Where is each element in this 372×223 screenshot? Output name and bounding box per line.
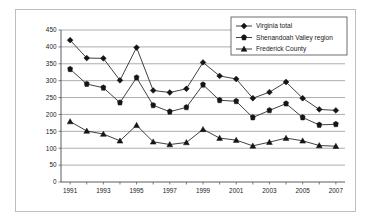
data-point [316,106,322,112]
data-point [200,126,206,131]
data-point [217,135,223,140]
y-tick-label: 350 [46,60,57,67]
chart-legend: Virginia totalShenandoah Valley regionFr… [231,17,347,55]
data-point [67,119,73,124]
y-tick-label: 400 [46,43,57,50]
data-point [150,88,156,94]
data-point [317,122,322,127]
data-point [333,121,338,126]
screenshot-root: 050100150200250300350400450 199119931995… [0,0,372,223]
x-tick-label: 1995 [129,187,144,194]
data-point [283,135,289,140]
x-tick-label: 1991 [63,187,78,194]
x-tick-label: 1997 [163,187,178,194]
x-tick-label: 2005 [296,187,311,194]
data-point [267,107,272,112]
y-tick-label: 450 [46,26,57,33]
data-point [167,90,173,96]
legend-marker [242,35,247,40]
data-point [68,66,73,71]
data-point [300,115,305,120]
y-tick-label: 50 [49,161,57,168]
data-point [217,97,222,102]
y-tick-label: 100 [46,145,57,152]
y-tick-label: 0 [53,178,57,185]
data-point [151,102,156,107]
data-point [84,128,90,133]
line-chart: 050100150200250300350400450 199119931995… [0,0,372,223]
data-point [134,122,140,127]
data-point [250,115,255,120]
data-point [183,86,189,92]
y-tick-label: 300 [46,77,57,84]
y-tick-label: 150 [46,128,57,135]
x-tick-label: 2003 [262,187,277,194]
data-point [134,45,140,51]
data-point [267,89,273,95]
series-line [70,69,336,125]
legend-label: Virginia total [256,22,293,30]
data-point [184,104,189,109]
data-point [101,85,106,90]
series-line [70,122,336,147]
data-point [84,81,89,86]
x-tick-label: 1993 [96,187,111,194]
y-tick-label: 250 [46,94,57,101]
x-tick-label: 1999 [196,187,211,194]
data-point [167,109,172,114]
y-axis-tick-labels: 050100150200250300350400450 [46,26,57,185]
series-shenandoah-valley-region [68,66,339,127]
legend-label: Frederick County [256,45,307,53]
data-point [234,98,239,103]
series-frederick-county [67,119,339,149]
data-point [117,100,122,105]
x-tick-label: 2007 [329,187,344,194]
data-point [284,101,289,106]
x-tick-label: 2001 [229,187,244,194]
data-point [201,82,206,87]
legend-label: Shenandoah Valley region [256,34,333,42]
data-point [333,107,339,113]
x-axis-tick-labels: 199119931995199719992001200320052007 [63,187,343,194]
data-point [134,75,139,80]
chart-svg: 050100150200250300350400450 199119931995… [0,0,372,223]
y-tick-label: 200 [46,111,57,118]
